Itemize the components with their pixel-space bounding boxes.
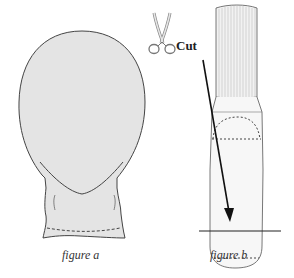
figure-a-caption: figure a bbox=[62, 248, 99, 263]
scissors-icon bbox=[149, 13, 175, 54]
figure-a-head bbox=[19, 31, 145, 238]
diagram-drawing bbox=[0, 0, 294, 278]
figure-b-caption: figure b bbox=[210, 248, 247, 263]
figure-b-sleeve bbox=[199, 5, 281, 268]
cut-label: Cut bbox=[176, 38, 197, 54]
diagram: Cut figure a figure b bbox=[0, 0, 294, 278]
